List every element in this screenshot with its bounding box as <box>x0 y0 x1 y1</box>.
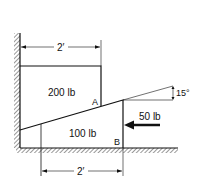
wall <box>14 33 20 148</box>
wedge-diagram: 200 lb A 100 lb B 15° 50 lb 2′ <box>0 0 207 182</box>
angle-annotation: 15° <box>123 86 190 100</box>
floor <box>16 148 178 153</box>
upper-block-weight: 200 lb <box>48 87 76 98</box>
point-b-label: B <box>114 137 120 147</box>
wedge-weight: 100 lb <box>69 128 97 139</box>
top-dimension-label: 2′ <box>57 42 65 53</box>
upper-block: 200 lb A <box>20 66 101 107</box>
wedge: 100 lb B <box>20 100 123 176</box>
force-arrow: 50 lb <box>124 111 161 130</box>
top-dimension: 2′ <box>21 40 101 66</box>
point-a-label: A <box>92 97 98 107</box>
angle-label: 15° <box>176 88 190 98</box>
bottom-dimension-label: 2′ <box>77 166 85 177</box>
force-label: 50 lb <box>139 111 161 122</box>
